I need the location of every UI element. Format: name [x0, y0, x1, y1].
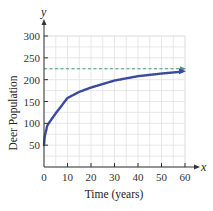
- svg-text:200: 200: [24, 74, 41, 86]
- x-axis-label: Time (years): [85, 188, 144, 201]
- svg-text:40: 40: [133, 171, 145, 183]
- svg-text:300: 300: [24, 30, 41, 42]
- svg-text:150: 150: [24, 96, 41, 108]
- svg-text:50: 50: [29, 139, 41, 151]
- svg-text:50: 50: [156, 171, 168, 183]
- svg-text:10: 10: [62, 171, 74, 183]
- svg-text:20: 20: [86, 171, 98, 183]
- svg-text:100: 100: [24, 117, 41, 129]
- y-axis-letter: y: [40, 5, 47, 19]
- svg-text:0: 0: [41, 171, 47, 183]
- svg-text:60: 60: [180, 171, 192, 183]
- x-axis-letter: x: [200, 160, 207, 174]
- svg-text:250: 250: [24, 52, 41, 64]
- svg-text:30: 30: [109, 171, 121, 183]
- y-axis-label: Deer Population: [7, 75, 20, 150]
- deer-population-chart: 010203040506050100150200250300 y x Time …: [0, 0, 213, 211]
